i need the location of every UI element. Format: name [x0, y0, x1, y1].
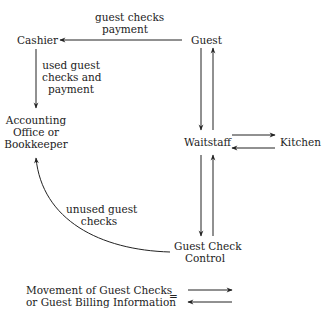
- edge-label-line: payment: [95, 23, 155, 35]
- node-label-line: Guest Check: [174, 240, 236, 252]
- legend-text: Movement of Guest Checks or Guest Billin…: [26, 284, 160, 308]
- edge-label-line: unused guest: [66, 203, 132, 215]
- node-guest-check-control: Guest Check Control: [174, 240, 236, 264]
- node-waitstaff: Waitstaff: [184, 136, 231, 148]
- node-label-line: Control: [174, 252, 236, 264]
- node-cashier: Cashier: [17, 34, 58, 46]
- edge-label-line: checks: [66, 215, 132, 227]
- legend-line: Movement of Guest Checks: [26, 284, 160, 296]
- node-label-line: Bookkeeper: [4, 138, 68, 150]
- node-label-line: Office or: [4, 126, 68, 138]
- arrows-layer: [0, 0, 327, 318]
- node-label-line: Accounting: [4, 114, 68, 126]
- legend-equals: =: [169, 290, 178, 302]
- node-accounting-office: Accounting Office or Bookkeeper: [4, 114, 68, 150]
- edge-label-line: used guest: [42, 59, 100, 71]
- edge-label-line: guest checks: [95, 11, 155, 23]
- edge-label-cashier-to-accounting: used guest checks and payment: [42, 59, 100, 95]
- node-kitchen: Kitchen: [280, 136, 321, 148]
- edge-label-line: payment: [42, 83, 100, 95]
- edge-label-guest-to-cashier: guest checks payment: [95, 11, 155, 35]
- guest-check-flow-diagram: Cashier Guest guest checks payment used …: [0, 0, 327, 318]
- legend-line: or Guest Billing Information: [26, 296, 160, 308]
- node-guest: Guest: [191, 34, 222, 46]
- edge-label-gcc-to-accounting: unused guest checks: [66, 203, 132, 227]
- edge-label-line: checks and: [42, 71, 100, 83]
